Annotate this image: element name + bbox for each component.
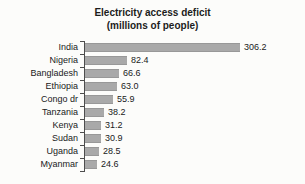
- value-label: 55.9: [117, 93, 135, 106]
- bar: [85, 134, 101, 143]
- category-label: Sudan: [0, 132, 78, 145]
- axis-tick: [80, 41, 84, 42]
- category-label: Ethiopia: [0, 80, 78, 93]
- category-label: Kenya: [0, 119, 78, 132]
- value-label: 63.0: [121, 80, 139, 93]
- value-label: 30.9: [105, 132, 123, 145]
- value-label: 306.2: [244, 41, 267, 54]
- axis-tick: [80, 93, 84, 94]
- bar: [85, 108, 104, 117]
- value-label: 38.2: [108, 106, 126, 119]
- value-label: 31.2: [105, 119, 123, 132]
- bar: [85, 43, 240, 52]
- value-label: 66.6: [123, 67, 141, 80]
- bar: [85, 82, 117, 91]
- axis-tick: [80, 119, 84, 120]
- category-label: Uganda: [0, 145, 78, 158]
- category-label: India: [0, 41, 78, 54]
- axis-tick: [80, 67, 84, 68]
- category-label: Bangladesh: [0, 67, 78, 80]
- category-label: Congo dr: [0, 93, 78, 106]
- bar: [85, 56, 127, 65]
- category-label: Tanzania: [0, 106, 78, 119]
- category-label: Nigeria: [0, 54, 78, 67]
- value-label: 28.5: [103, 145, 121, 158]
- axis-tick: [80, 171, 84, 172]
- axis-tick: [80, 158, 84, 159]
- axis-tick: [80, 106, 84, 107]
- value-label: 82.4: [131, 54, 149, 67]
- bar: [85, 147, 99, 156]
- axis-tick: [80, 80, 84, 81]
- axis-tick: [80, 132, 84, 133]
- bar: [85, 160, 97, 169]
- bar: [85, 69, 119, 78]
- axis-tick: [80, 54, 84, 55]
- axis-tick: [80, 145, 84, 146]
- category-label: Myanmar: [0, 158, 78, 171]
- bar: [85, 95, 113, 104]
- bar-chart: India306.2Nigeria82.4Bangladesh66.6Ethio…: [0, 0, 305, 184]
- chart-canvas: Electricity access deficit (millions of …: [0, 0, 305, 184]
- value-label: 24.6: [101, 158, 119, 171]
- bar: [85, 121, 101, 130]
